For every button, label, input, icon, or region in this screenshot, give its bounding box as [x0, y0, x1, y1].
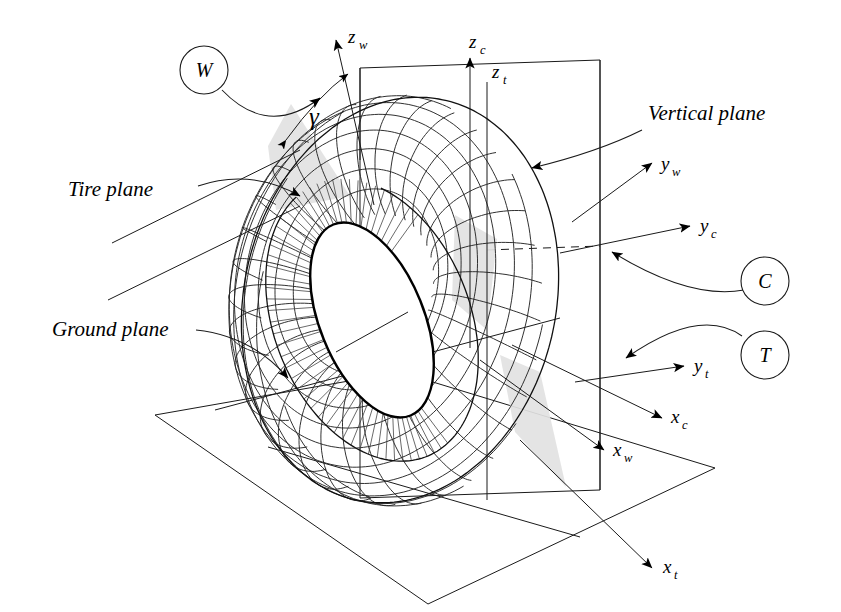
plane-label-ground_plane: Ground plane [52, 317, 168, 341]
axis-arrow-y-t [575, 366, 684, 382]
sidewall-hatch-line [377, 413, 383, 457]
sidewall-hatch-line [356, 180, 358, 224]
axis-label-base-x_t: x [662, 556, 672, 577]
sidewall-hatch-line [297, 362, 334, 389]
axis-label-base-y_t: y [692, 355, 703, 376]
sidewall-hatch-line [334, 394, 358, 433]
axis-label-sub-z_t: t [503, 73, 507, 87]
sidewall-hatch-line [381, 201, 401, 241]
leader-C-to-y-c [612, 252, 744, 292]
circle-label-text-T: T [759, 344, 772, 366]
circle-labels-group: WCT [180, 46, 789, 379]
tire-plane-shade-lower [500, 355, 566, 487]
sidewall-hatch-line [386, 207, 410, 246]
axis-label-sub-x_c: c [682, 418, 688, 432]
axis-label-x_c: xc [670, 406, 688, 432]
sidewall-hatch-line [376, 195, 393, 237]
axis-label-sub-x_w: w [624, 451, 633, 465]
axis-arrow-z-w [336, 40, 374, 205]
axis-label-sub-x_t: t [674, 568, 678, 582]
axis-label-x_w: xw [612, 439, 633, 465]
leader-vertical-plane [532, 130, 642, 168]
axis-label-base-y_w: y [659, 153, 670, 174]
axis-label-x_t: xt [662, 556, 678, 582]
plane-label-tire_plane: Tire plane [68, 177, 153, 201]
axis-label-sub-z_w: w [359, 38, 368, 52]
axis-label-base-y_c: y [698, 215, 709, 236]
sidewall-hatch-line [341, 179, 347, 223]
axis-label-z_c: zc [468, 31, 486, 57]
axis-label-base-z_t: z [491, 61, 500, 82]
sidewall-hatch-line [351, 404, 368, 446]
angle-label-camber_angle: γ [309, 103, 320, 130]
axis-label-y_t: yt [692, 355, 709, 381]
sidewall-hatch-line [291, 355, 330, 379]
sidewall-hatch-line [326, 389, 353, 426]
axis-label-y_w: yw [659, 153, 681, 179]
sidewall-hatch-line [268, 307, 314, 310]
sidewall-hatch-line [266, 276, 311, 284]
axis-label-y_c: yc [698, 215, 717, 241]
plane-label-vertical_plane: Vertical plane [648, 101, 765, 125]
axis-label-z_t: zt [491, 61, 507, 87]
circle-label-C: C [741, 257, 789, 305]
sidewall-hatch-line [402, 417, 411, 460]
axis-label-sub-y_w: w [672, 165, 681, 179]
axis-label-base-z_c: z [468, 31, 477, 52]
leader-W-to-z-w [222, 90, 320, 116]
circle-label-text-W: W [196, 59, 215, 81]
axis-arrow-y-w [572, 163, 652, 222]
tire-plane-trace-line-b [108, 206, 300, 300]
axis-label-base-x_w: x [612, 439, 622, 460]
sidewall-hatch-line [270, 245, 311, 263]
diagram-svg: WCT Tire planeGround planeVertical plane… [0, 0, 841, 612]
axis-label-sub-y_c: c [711, 227, 717, 241]
axis-label-sub-y_t: t [705, 367, 709, 381]
sidewall-hatch-line [349, 179, 351, 223]
circle-label-T: T [741, 331, 789, 379]
sidewall-hatch-line [311, 376, 343, 408]
sidewall-hatch-line [286, 347, 327, 368]
axis-label-z_w: zw [347, 26, 368, 52]
axis-arrow-y-c [560, 226, 690, 253]
sidewall-hatch-line [391, 215, 418, 252]
axis-label-base-x_c: x [670, 406, 680, 427]
sidewall-hatch-line [267, 299, 313, 300]
leader-T-to-y-t [626, 325, 742, 358]
diagram-canvas: WCT Tire planeGround planeVertical plane… [0, 0, 841, 612]
circle-label-W: W [180, 46, 228, 94]
axis-label-sub-z_c: c [480, 43, 486, 57]
axis-label-base-z_w: z [347, 26, 356, 47]
circle-label-text-C: C [758, 270, 772, 292]
